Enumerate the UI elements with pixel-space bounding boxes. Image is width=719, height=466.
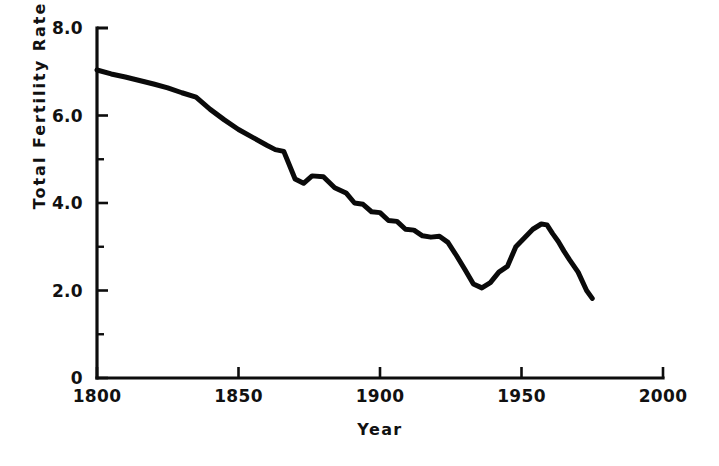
x-tick-label: 1950 (497, 386, 546, 406)
y-axis-major-ticks (97, 28, 108, 378)
x-tick-label: 2000 (639, 386, 688, 406)
x-axis-title: Year (357, 420, 402, 439)
x-tick-label: 1850 (214, 386, 263, 406)
fertility-rate-line (97, 70, 592, 298)
x-axis-major-ticks (97, 367, 663, 378)
chart-axes (97, 28, 663, 378)
y-tick-label: 2.0 (8, 281, 83, 301)
y-tick-label: 0 (8, 368, 83, 388)
x-tick-label: 1800 (73, 386, 122, 406)
x-tick-label: 1900 (356, 386, 405, 406)
y-axis-title: Total Fertility Rate (30, 0, 49, 241)
fertility-rate-chart-figure: 02.04.06.08.0 18001850190019502000 Total… (0, 0, 719, 466)
